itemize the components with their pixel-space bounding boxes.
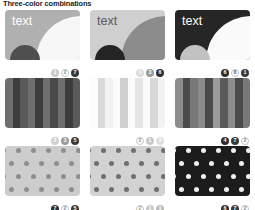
color-number-badge[interactable]: 7 [71, 69, 79, 77]
color-number-badge[interactable]: 2 [61, 69, 69, 77]
stripe-swatch-card[interactable] [90, 78, 165, 128]
dot-shape [139, 161, 144, 166]
color-number-badge[interactable]: 5 [71, 205, 79, 210]
dot-shape [39, 161, 44, 166]
color-number-badges: 681 [221, 69, 249, 77]
half-circle-shape [95, 45, 125, 60]
dot-shape [186, 148, 191, 153]
stripe-band [73, 78, 81, 128]
stripe-swatch-card[interactable] [175, 78, 250, 128]
color-number-badge[interactable]: 6 [221, 69, 229, 77]
color-number-badge[interactable]: 6 [156, 69, 164, 77]
color-number-badge[interactable]: 2 [136, 205, 144, 210]
color-number-badges: 211 [136, 205, 164, 210]
dot-shape [194, 187, 199, 192]
color-number-badge[interactable]: 7 [231, 137, 239, 145]
color-number-badge[interactable]: 3 [156, 137, 164, 145]
color-number-badge[interactable]: 2 [241, 137, 249, 145]
color-number-badges: 136 [136, 69, 164, 77]
color-number-badge[interactable]: 3 [61, 137, 69, 145]
text-swatch-card[interactable]: text [90, 10, 165, 60]
swatch-grid: text127 text136 text681 235 213 472 725 … [0, 10, 255, 210]
color-number-badge[interactable]: 1 [241, 69, 249, 77]
swatch-text-label: text [182, 15, 202, 28]
swatch-cell[interactable]: 235 [0, 78, 85, 146]
dot-shape [116, 174, 121, 179]
color-number-badge[interactable]: 5 [71, 137, 79, 145]
dot-shape [116, 148, 121, 153]
dot-shape [201, 148, 206, 153]
swatch-cell[interactable]: 211 [85, 146, 170, 210]
dot-shape [9, 187, 14, 192]
stripe-band [158, 78, 166, 128]
dot-shape [90, 174, 91, 179]
color-number-badge[interactable]: 7 [231, 205, 239, 210]
color-number-badge[interactable]: 7 [51, 205, 59, 210]
color-number-badge[interactable]: 1 [136, 69, 144, 77]
color-combination-sheet: Three-color combinations text127 text136… [0, 0, 255, 210]
dot-shape [216, 148, 221, 153]
dot-shape [209, 161, 214, 166]
color-number-badge[interactable]: 1 [146, 205, 154, 210]
dot-shape [146, 174, 151, 179]
color-number-badge[interactable]: 1 [51, 69, 59, 77]
dot-swatch-card[interactable] [5, 146, 80, 196]
dot-shape [131, 148, 136, 153]
dot-shape [109, 161, 114, 166]
color-number-badge[interactable]: 1 [156, 205, 164, 210]
half-circle-shape [10, 45, 40, 60]
text-swatch-card[interactable]: text [5, 10, 80, 60]
color-number-badge[interactable]: 2 [61, 205, 69, 210]
color-number-badge[interactable]: 2 [136, 137, 144, 145]
dot-shape [161, 174, 165, 179]
dot-shape [94, 161, 99, 166]
dot-shape [216, 174, 221, 179]
dot-shape [46, 174, 51, 179]
swatch-cell[interactable]: 725 [0, 146, 85, 210]
dot-shape [69, 187, 74, 192]
dot-shape [194, 161, 199, 166]
dot-shape [16, 174, 21, 179]
dot-shape [139, 187, 144, 192]
dot-shape [54, 187, 59, 192]
color-number-badge[interactable]: 2 [51, 137, 59, 145]
color-number-badge[interactable]: 8 [231, 69, 239, 77]
swatch-cell[interactable]: text681 [170, 10, 255, 78]
dot-shape [239, 187, 244, 192]
swatch-cell[interactable]: 213 [85, 78, 170, 146]
color-number-badge[interactable]: 1 [146, 137, 154, 145]
color-number-badges: 472 [221, 137, 249, 145]
dot-shape [9, 161, 14, 166]
dot-shape [124, 161, 129, 166]
dot-shape [154, 161, 159, 166]
dot-shape [186, 174, 191, 179]
dot-shape [175, 148, 176, 153]
swatch-cell[interactable]: 672 [170, 146, 255, 210]
stripe-swatch-card[interactable] [5, 78, 80, 128]
swatch-cell[interactable]: text127 [0, 10, 85, 78]
dot-shape [146, 148, 151, 153]
dot-shape [39, 187, 44, 192]
dot-shape [46, 148, 51, 153]
color-number-badge[interactable]: 3 [146, 69, 154, 77]
swatch-cell[interactable]: 472 [170, 78, 255, 146]
quarter-circle-shape [206, 16, 250, 60]
text-swatch-card[interactable]: text [175, 10, 250, 60]
color-number-badge[interactable]: 6 [221, 205, 229, 210]
dot-swatch-card[interactable] [175, 146, 250, 196]
quarter-circle-shape [121, 16, 165, 60]
dot-shape [31, 174, 36, 179]
swatch-cell[interactable]: text136 [85, 10, 170, 78]
dot-shape [224, 187, 229, 192]
dot-shape [5, 174, 6, 179]
dot-shape [24, 161, 29, 166]
color-number-badges: 127 [51, 69, 79, 77]
dot-shape [231, 174, 236, 179]
dot-shape [90, 148, 91, 153]
color-number-badges: 235 [51, 137, 79, 145]
dot-shape [179, 161, 184, 166]
dot-swatch-card[interactable] [90, 146, 165, 196]
color-number-badge[interactable]: 2 [241, 205, 249, 210]
color-number-badge[interactable]: 4 [221, 137, 229, 145]
dot-shape [16, 148, 21, 153]
